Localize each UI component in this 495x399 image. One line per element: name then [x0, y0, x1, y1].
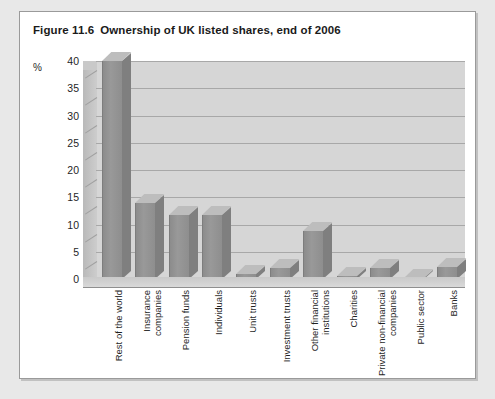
bar-side-6 [323, 223, 332, 279]
x-tick-label-8: Private non-financialcompanies [376, 290, 398, 376]
bar-10 [437, 258, 457, 279]
bar-side-1 [155, 195, 164, 279]
x-tick-label-3: Individuals [213, 290, 224, 335]
figure-panel: Figure 11.6Ownership of UK listed shares… [19, 11, 476, 379]
figure-number: Figure 11.6 [33, 24, 94, 36]
x-tick-label-2: Pension funds [180, 290, 191, 350]
y-tick-35: 35 [47, 82, 79, 94]
bar-0 [102, 52, 122, 279]
figure-title-text: Ownership of UK listed shares, end of 20… [100, 24, 341, 36]
bar-chart: % 0510152025303540 Rest of the worldInsu… [33, 45, 465, 370]
y-tick-30: 30 [47, 110, 79, 122]
y-axis-tick-labels: 0510152025303540 [47, 45, 79, 295]
bar-series [96, 61, 465, 279]
bar-3 [202, 206, 222, 279]
y-axis-unit-label: % [33, 62, 42, 73]
x-axis-tick-labels: Rest of the worldInsurancecompaniesPensi… [96, 290, 478, 370]
x-tick-label-6: Other financialinstitutions [309, 290, 331, 351]
bar-1 [135, 194, 155, 279]
y-tick-40: 40 [47, 55, 79, 67]
x-tick-label-4: Unit trusts [247, 290, 258, 333]
page-title: Figure 11.6Ownership of UK listed shares… [33, 24, 341, 36]
bar-front-6 [303, 231, 323, 279]
bar-front-0 [102, 61, 122, 279]
bar-front-1 [135, 203, 155, 279]
x-tick-label-7: Charities [348, 290, 359, 328]
x-tick-label-10: Banks [448, 290, 459, 316]
bar-side-0 [122, 53, 131, 279]
bar-6 [303, 222, 323, 279]
y-tick-0: 0 [47, 273, 79, 285]
plot-floor [83, 277, 465, 288]
y-tick-20: 20 [47, 164, 79, 176]
bar-side-3 [222, 207, 231, 279]
x-tick-label-1: Insurancecompanies [141, 290, 163, 336]
y-tick-15: 15 [47, 191, 79, 203]
bar-front-3 [202, 215, 222, 279]
plot-side-wall [83, 61, 97, 279]
bar-2 [169, 206, 189, 279]
plot-area [83, 61, 465, 288]
x-tick-label-0: Rest of the world [113, 290, 124, 361]
y-tick-10: 10 [47, 219, 79, 231]
bar-front-2 [169, 215, 189, 279]
x-tick-label-5: Investment trusts [281, 290, 292, 362]
plot-side-wall-top [83, 61, 97, 70]
x-tick-label-9: Public sector [415, 290, 426, 344]
y-tick-25: 25 [47, 137, 79, 149]
y-tick-5: 5 [47, 246, 79, 258]
bar-side-2 [189, 207, 198, 279]
